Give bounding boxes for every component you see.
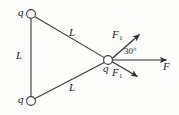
force-label-f1-upper-subscript: 1: [119, 34, 123, 42]
charge-label-bottom: q: [18, 94, 24, 105]
force-label-f1-upper-base: F: [112, 28, 119, 40]
force-label-f1-upper: F1: [112, 29, 122, 42]
side-label-upper: L: [69, 27, 75, 38]
charge-circle-top: [27, 10, 36, 19]
force-label-f1-lower: F1: [112, 67, 122, 80]
force-label-f1-lower-subscript: 1: [119, 72, 123, 80]
side-label-left: L: [16, 50, 22, 61]
physics-figure: q q q L L L F1 F1 F 30°: [0, 0, 179, 115]
side-label-lower: L: [69, 82, 75, 93]
force-label-f-resultant: F: [163, 61, 170, 72]
charge-circle-bottom: [27, 97, 36, 106]
charge-label-top: q: [18, 7, 24, 18]
angle-label: 30°: [124, 47, 137, 56]
diagram-canvas: [0, 0, 179, 115]
force-label-f1-lower-base: F: [112, 66, 119, 78]
charge-label-center: q: [103, 63, 109, 74]
